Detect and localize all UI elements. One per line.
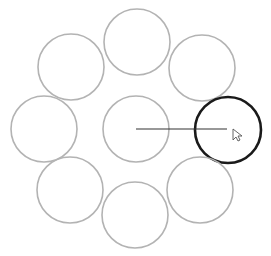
circle-top-right[interactable] <box>169 35 235 101</box>
circle-right-selected[interactable] <box>195 97 261 163</box>
circle-top[interactable] <box>104 9 170 75</box>
mouse-pointer-icon <box>233 129 242 141</box>
circle-top-left[interactable] <box>38 34 104 100</box>
circle-bottom[interactable] <box>102 182 168 248</box>
diagram-canvas[interactable] <box>0 0 271 256</box>
circle-bottom-left[interactable] <box>37 157 103 223</box>
circle-bottom-right[interactable] <box>167 157 233 223</box>
diagram-svg[interactable] <box>0 0 271 256</box>
circle-left[interactable] <box>11 96 77 162</box>
